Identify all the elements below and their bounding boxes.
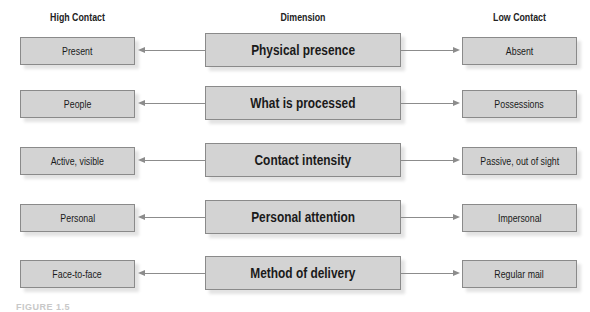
low-contact-box: Absent — [462, 37, 577, 65]
low-contact-box: Passive, out of sight — [462, 147, 577, 175]
arrow-right-icon — [453, 100, 460, 106]
dimension-box: Personal attention — [205, 200, 401, 234]
dimension-box: What is processed — [205, 86, 401, 120]
high-contact-label: Present — [62, 46, 92, 57]
arrow-right-icon — [453, 47, 460, 53]
high-contact-label: Face-to-face — [53, 269, 102, 280]
high-contact-label: Active, visible — [51, 156, 104, 167]
low-contact-label: Possessions — [495, 99, 544, 110]
connector-line — [401, 160, 454, 161]
dimension-box: Physical presence — [205, 33, 401, 67]
high-contact-box: Active, visible — [20, 147, 135, 175]
high-contact-box: Present — [20, 37, 135, 65]
high-contact-box: Face-to-face — [20, 260, 135, 288]
dimension-row: Personal Personal attention Impersonal — [0, 197, 590, 237]
dimension-row: People What is processed Possessions — [0, 83, 590, 123]
connector-line — [144, 50, 205, 51]
connector-line — [401, 50, 454, 51]
low-contact-label: Passive, out of sight — [480, 156, 559, 167]
connector-line — [144, 160, 205, 161]
connector-line — [401, 273, 454, 274]
low-contact-label: Absent — [506, 46, 533, 57]
dimension-label: Physical presence — [251, 42, 355, 58]
low-contact-label: Impersonal — [498, 213, 542, 224]
high-contact-label: People — [64, 99, 91, 110]
dimension-box: Method of delivery — [205, 256, 401, 290]
dimension-box: Contact intensity — [205, 143, 401, 177]
connector-line — [401, 217, 454, 218]
connector-line — [144, 217, 205, 218]
connector-line — [144, 103, 205, 104]
high-contact-box: People — [20, 90, 135, 118]
connector-line — [401, 103, 454, 104]
header-dimension: Dimension — [217, 12, 389, 23]
low-contact-box: Possessions — [462, 90, 577, 118]
figure-caption: FIGURE 1.5 — [16, 302, 70, 312]
arrow-right-icon — [453, 157, 460, 163]
dimension-row: Face-to-face Method of delivery Regular … — [0, 253, 590, 293]
high-contact-label: Personal — [60, 213, 95, 224]
high-contact-box: Personal — [20, 204, 135, 232]
dimension-row: Active, visible Contact intensity Passiv… — [0, 140, 590, 180]
low-contact-label: Regular mail — [495, 269, 544, 280]
header-low-contact: Low Contact — [469, 12, 570, 23]
low-contact-box: Impersonal — [462, 204, 577, 232]
dimension-row: Present Physical presence Absent — [0, 30, 590, 70]
dimension-label: Contact intensity — [255, 152, 352, 168]
dimension-label: Personal attention — [251, 209, 355, 225]
dimension-label: Method of delivery — [250, 265, 355, 281]
low-contact-box: Regular mail — [462, 260, 577, 288]
dimension-label: What is processed — [250, 95, 355, 111]
connector-line — [144, 273, 205, 274]
header-high-contact: High Contact — [27, 12, 128, 23]
arrow-right-icon — [453, 214, 460, 220]
arrow-right-icon — [453, 270, 460, 276]
